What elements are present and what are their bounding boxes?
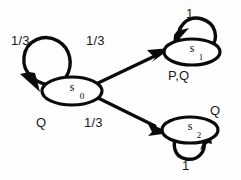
state-s0-name: s xyxy=(70,80,75,94)
state-s2-subscript: 2 xyxy=(197,130,202,140)
edge-s0-to-s1 xyxy=(96,48,171,84)
state-s0-subscript: 0 xyxy=(80,91,85,101)
state-transition-diagram: s 0 s 1 s 2 1/3 1/3 1/3 1 1 Q P,Q Q xyxy=(0,0,241,180)
transition-label-s0-s0: 1/3 xyxy=(11,33,30,48)
edge-s0-to-s2 xyxy=(94,96,170,136)
transition-label-s0-s2: 1/3 xyxy=(84,115,103,130)
state-s2-name: s xyxy=(188,119,193,133)
state-s1-subscript: 1 xyxy=(199,52,204,62)
diagram-canvas: s 0 s 1 s 2 xyxy=(0,0,241,180)
transition-label-s1-s1: 1 xyxy=(186,6,193,21)
propositions-label-s0: Q xyxy=(36,115,46,130)
transition-label-s0-s1: 1/3 xyxy=(86,33,105,48)
state-node-s0[interactable]: s 0 xyxy=(42,77,102,105)
edge-s0-to-s2-path xyxy=(94,96,155,126)
propositions-label-s2: Q xyxy=(210,103,220,118)
state-node-s2[interactable]: s 2 xyxy=(162,117,218,143)
state-node-s1[interactable]: s 1 xyxy=(164,39,220,65)
self-loop-s0-arrowhead xyxy=(20,72,40,92)
edge-s0-to-s1-path xyxy=(96,55,157,84)
transition-label-s2-s2: 1 xyxy=(182,158,189,173)
propositions-label-s1: P,Q xyxy=(168,68,189,83)
state-s1-name: s xyxy=(190,41,195,55)
